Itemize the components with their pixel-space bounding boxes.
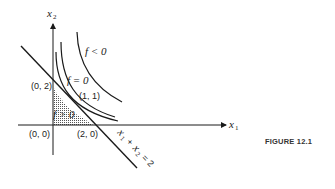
svg-text:1: 1 [235, 124, 239, 132]
point-label-2-0: (2, 0) [77, 129, 98, 139]
region-label-negative: f < 0 [85, 45, 107, 57]
constraint-line [21, 46, 137, 168]
figure-caption: FIGURE 12.1 [265, 137, 312, 146]
point-label-0-0: (0, 0) [29, 129, 50, 139]
svg-text:x: x [228, 118, 234, 130]
svg-text:+: + [125, 137, 136, 148]
point-label-1-1: (1, 1) [79, 91, 100, 101]
x1-axis-label: x 1 [228, 118, 239, 132]
point-label-0-2: (0, 2) [31, 81, 52, 91]
diagram-canvas: x 2 x 1 (0, 2) (1, 1) (0, 0) (2, 0) f < … [0, 0, 335, 189]
svg-text:2: 2 [53, 13, 57, 21]
svg-text:x: x [46, 7, 52, 19]
region-label-zero: f = 0 [67, 74, 89, 86]
region-label-positive: f > 0 [53, 108, 75, 120]
svg-text:= 2: = 2 [140, 153, 156, 169]
constraint-label: x 1 + x 2 = 2 [113, 125, 157, 170]
x2-axis-label: x 2 [46, 7, 57, 21]
